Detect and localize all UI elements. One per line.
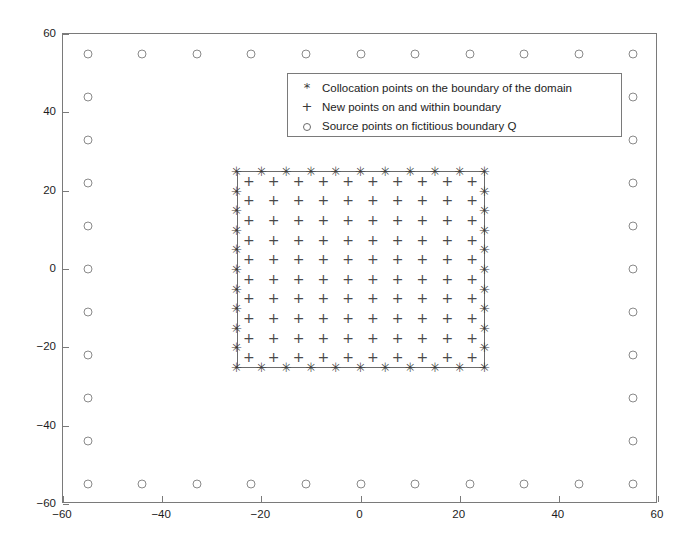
new-point-marker: + [316, 174, 330, 188]
new-point-marker: + [366, 350, 380, 364]
new-point-marker: + [415, 233, 429, 247]
domain-boundary-edge [484, 171, 485, 367]
source-point-marker [83, 394, 92, 403]
new-point-marker: + [415, 311, 429, 325]
new-point-marker: + [267, 233, 281, 247]
new-point-marker: + [242, 350, 256, 364]
new-point-marker: + [292, 272, 306, 286]
new-point-marker: + [242, 252, 256, 266]
new-point-marker: + [366, 252, 380, 266]
figure-canvas: −60−40−200204060 −60−40−200204060 ++++++… [0, 0, 683, 558]
source-point-marker [629, 92, 638, 101]
new-point-marker: + [440, 233, 454, 247]
new-point-marker: + [440, 213, 454, 227]
source-point-marker [629, 135, 638, 144]
new-point-marker: + [242, 213, 256, 227]
new-point-marker: + [267, 213, 281, 227]
asterisk-icon: * [292, 80, 322, 95]
new-point-marker: + [440, 272, 454, 286]
source-point-marker [83, 265, 92, 274]
source-point-marker [629, 49, 638, 58]
source-point-marker [83, 437, 92, 446]
legend-label-new-points: New points on and within boundary [322, 101, 501, 113]
new-point-marker: + [242, 174, 256, 188]
new-point-marker: + [267, 350, 281, 364]
new-point-marker: + [415, 193, 429, 207]
new-point-marker: + [316, 350, 330, 364]
y-tick-label: 60 [6, 27, 56, 39]
new-point-marker: + [316, 193, 330, 207]
source-point-marker [629, 351, 638, 360]
source-point-marker [83, 351, 92, 360]
source-point-marker [192, 480, 201, 489]
new-point-marker: + [341, 174, 355, 188]
new-point-marker: + [316, 331, 330, 345]
new-point-marker: + [391, 331, 405, 345]
new-point-marker: + [267, 193, 281, 207]
new-point-marker: + [292, 174, 306, 188]
source-point-marker [301, 49, 310, 58]
new-point-marker: + [415, 350, 429, 364]
x-tick [261, 496, 262, 502]
new-point-marker: + [341, 311, 355, 325]
source-point-marker [356, 49, 365, 58]
legend-label-collocation: Collocation points on the boundary of th… [322, 82, 572, 94]
source-point-marker [629, 265, 638, 274]
new-point-marker: + [292, 291, 306, 305]
source-point-marker [411, 480, 420, 489]
new-point-marker: + [292, 331, 306, 345]
domain-boundary-edge [237, 171, 485, 172]
y-tick-label: 40 [6, 105, 56, 117]
legend-label-source-points: Source points on fictitious boundary Q [322, 120, 516, 132]
x-tick-label: 60 [651, 508, 664, 520]
source-point-marker [629, 308, 638, 317]
circle-icon [292, 118, 322, 133]
new-point-marker: + [465, 252, 479, 266]
source-point-marker [574, 480, 583, 489]
x-tick-label: 40 [551, 508, 564, 520]
source-point-marker [83, 49, 92, 58]
new-point-marker: + [341, 233, 355, 247]
new-point-marker: + [465, 331, 479, 345]
new-point-marker: + [391, 193, 405, 207]
new-point-marker: + [465, 311, 479, 325]
source-point-marker [83, 480, 92, 489]
new-point-marker: + [465, 193, 479, 207]
new-point-marker: + [465, 233, 479, 247]
new-point-marker: + [440, 350, 454, 364]
new-point-marker: + [242, 272, 256, 286]
new-point-marker: + [366, 331, 380, 345]
y-tick-label: −40 [6, 419, 56, 431]
x-tick-label: 20 [452, 508, 465, 520]
source-point-marker [83, 221, 92, 230]
source-point-marker [83, 178, 92, 187]
source-point-marker [83, 92, 92, 101]
source-point-marker [574, 49, 583, 58]
x-tick [658, 496, 659, 502]
new-point-marker: + [415, 174, 429, 188]
new-point-marker: + [316, 311, 330, 325]
new-point-marker: + [391, 252, 405, 266]
y-tick [63, 191, 69, 192]
source-point-marker [520, 49, 529, 58]
source-point-marker [629, 480, 638, 489]
new-point-marker: + [366, 174, 380, 188]
source-point-marker [629, 437, 638, 446]
x-tick-label: −20 [251, 508, 271, 520]
new-point-marker: + [366, 291, 380, 305]
new-point-marker: + [391, 174, 405, 188]
new-point-marker: + [415, 272, 429, 286]
new-point-marker: + [267, 272, 281, 286]
x-tick-label: −40 [151, 508, 171, 520]
plus-icon: + [292, 99, 322, 114]
new-point-marker: + [242, 291, 256, 305]
source-point-marker [629, 394, 638, 403]
new-point-marker: + [292, 213, 306, 227]
source-point-marker [411, 49, 420, 58]
new-point-marker: + [292, 311, 306, 325]
new-point-marker: + [440, 291, 454, 305]
x-tick [361, 496, 362, 502]
new-point-marker: + [316, 252, 330, 266]
source-point-marker [138, 480, 147, 489]
new-point-marker: + [465, 291, 479, 305]
